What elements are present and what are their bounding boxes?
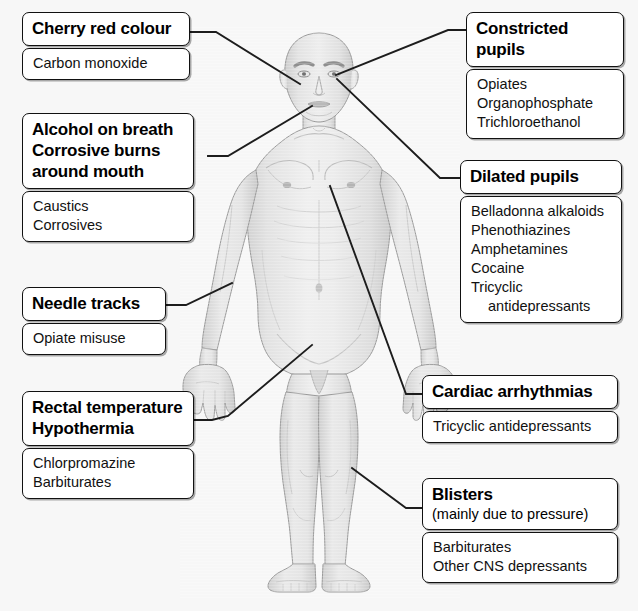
cause-item: Amphetamines (471, 240, 612, 259)
cause-item: Phenothiazines (471, 221, 612, 240)
cause-item: Trichloroethanol (477, 113, 614, 132)
callout-subheading: (mainly due to pressure) (432, 505, 608, 523)
callout-blisters[interactable]: Blisters (mainly due to pressure) Barbit… (422, 478, 618, 583)
cause-item: Barbiturates (433, 538, 608, 557)
callout-rectal-temperature[interactable]: Rectal temperature Hypothermia Chlorprom… (22, 391, 194, 499)
callout-heading: Dilated pupils (460, 160, 622, 194)
callout-causes: Opiates Organophosphate Trichloroethanol (466, 69, 624, 139)
callout-causes: Opiate misuse (22, 323, 166, 355)
cause-item: Caustics (33, 197, 184, 216)
cause-item: Belladonna alkaloids (471, 202, 612, 221)
callout-causes: Belladonna alkaloids Phenothiazines Amph… (460, 196, 622, 323)
callout-causes: Tricyclic antidepressants (422, 411, 618, 443)
callout-cherry-red-colour[interactable]: Cherry red colour Carbon monoxide (22, 12, 190, 80)
cause-item: Chlorpromazine (33, 454, 184, 473)
cause-item: Tricyclic (471, 278, 612, 297)
callout-heading: Constricted pupils (466, 12, 624, 67)
cause-item: antidepressants (471, 297, 612, 316)
body-group (180, 25, 460, 600)
cause-item: Other CNS depressants (433, 557, 608, 576)
cause-item: Tricyclic antidepressants (433, 417, 608, 436)
callout-heading: Cardiac arrhythmias (422, 375, 618, 409)
callout-heading: Cherry red colour (22, 12, 190, 46)
cause-item: Corrosives (33, 216, 184, 235)
poisoning-signs-diagram: Cherry red colour Carbon monoxide Constr… (0, 0, 638, 611)
cause-item: Opiate misuse (33, 329, 156, 348)
cause-item: Carbon monoxide (33, 54, 180, 73)
callout-cardiac-arrhythmias[interactable]: Cardiac arrhythmias Tricyclic antidepres… (422, 375, 618, 443)
callout-alcohol-on-breath[interactable]: Alcohol on breath Corrosive burns around… (22, 113, 194, 242)
callout-constricted-pupils[interactable]: Constricted pupils Opiates Organophospha… (466, 12, 624, 139)
callout-heading: Blisters (mainly due to pressure) (422, 478, 618, 530)
cause-item: Opiates (477, 75, 614, 94)
callout-heading: Alcohol on breath Corrosive burns around… (22, 113, 194, 189)
callout-causes: Barbiturates Other CNS depressants (422, 532, 618, 583)
callout-causes: Caustics Corrosives (22, 191, 194, 242)
callout-heading: Rectal temperature Hypothermia (22, 391, 194, 446)
callout-causes: Carbon monoxide (22, 48, 190, 80)
callout-heading-main: Blisters (432, 485, 493, 504)
cause-item: Organophosphate (477, 94, 614, 113)
cause-item: Cocaine (471, 259, 612, 278)
callout-heading: Needle tracks (22, 287, 166, 321)
callout-needle-tracks[interactable]: Needle tracks Opiate misuse (22, 287, 166, 355)
callout-causes: Chlorpromazine Barbiturates (22, 448, 194, 499)
cause-item: Barbiturates (33, 473, 184, 492)
callout-dilated-pupils[interactable]: Dilated pupils Belladonna alkaloids Phen… (460, 160, 622, 323)
